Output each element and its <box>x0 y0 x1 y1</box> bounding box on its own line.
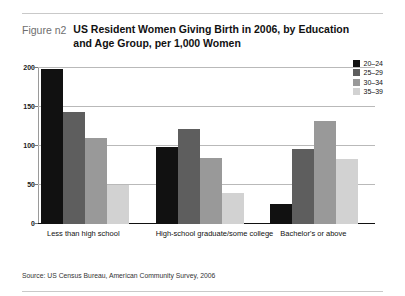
y-axis-tick-mark <box>33 106 38 107</box>
legend-item: 30–34 <box>353 79 383 86</box>
figure-number-label: Figure n2 <box>22 23 66 37</box>
chart-legend: 20–2425–2930–3435–39 <box>353 60 383 96</box>
bottom-divider <box>22 291 383 292</box>
bar-group: Less than high school <box>39 68 154 224</box>
legend-swatch-icon <box>353 79 360 86</box>
x-axis-category-label: High-school graduate/some college <box>154 229 269 238</box>
bars <box>154 68 269 224</box>
legend-label: 30–34 <box>364 79 383 86</box>
chart: 050100150200 Less than high schoolHigh-s… <box>22 60 383 245</box>
y-axis-tick-mark <box>33 145 38 146</box>
top-divider <box>22 13 383 14</box>
source-note: Source: US Census Bureau, American Commu… <box>22 272 215 279</box>
legend-item: 35–39 <box>353 88 383 95</box>
bar <box>336 159 358 224</box>
bar <box>85 138 107 224</box>
bar <box>156 147 178 224</box>
legend-label: 20–24 <box>364 60 383 67</box>
legend-item: 25–29 <box>353 69 383 76</box>
x-axis-category-label: Bachelor's or above <box>268 229 383 238</box>
bar <box>270 204 292 224</box>
figure-caption: Figure n2 US Resident Women Giving Birth… <box>22 23 383 51</box>
legend-label: 25–29 <box>364 69 383 76</box>
plot-area: 050100150200 Less than high schoolHigh-s… <box>38 68 383 224</box>
bar <box>41 69 63 223</box>
bar <box>292 149 314 224</box>
bars <box>39 68 154 224</box>
legend-swatch-icon <box>353 88 360 95</box>
bar-group: High-school graduate/some college <box>154 68 269 224</box>
bar-groups: Less than high schoolHigh-school graduat… <box>39 68 383 224</box>
legend-swatch-icon <box>353 69 360 76</box>
bar <box>222 193 244 224</box>
y-axis-tick-mark <box>33 223 38 224</box>
y-axis-tick-mark <box>33 184 38 185</box>
bar <box>178 129 200 224</box>
bar <box>314 121 336 224</box>
page-title: US Resident Women Giving Birth in 2006, … <box>73 23 359 51</box>
bar <box>200 158 222 224</box>
bar <box>63 112 85 224</box>
figure-container: Figure n2 US Resident Women Giving Birth… <box>0 13 405 296</box>
x-axis-category-label: Less than high school <box>39 229 154 238</box>
legend-item: 20–24 <box>353 60 383 67</box>
y-axis-tick-mark <box>33 67 38 68</box>
bar <box>107 185 129 224</box>
legend-swatch-icon <box>353 60 360 67</box>
legend-label: 35–39 <box>364 88 383 95</box>
